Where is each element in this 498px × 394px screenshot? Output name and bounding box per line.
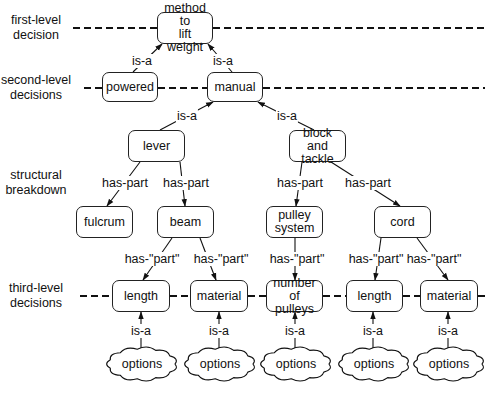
edge-label: has-part — [162, 176, 210, 190]
node-powered: powered — [102, 72, 158, 102]
options-cloud-label: options — [200, 357, 240, 371]
level-label-structural: structural breakdown — [3, 168, 68, 198]
node-material1: material — [190, 280, 248, 312]
level-label-third: third-level decisions — [7, 281, 65, 311]
edge-label: has-part — [101, 176, 149, 190]
edge-label: has-part — [344, 176, 392, 190]
connector-layer — [0, 0, 498, 394]
node-length2: length — [346, 280, 403, 312]
edge-label: has-"part" — [269, 252, 326, 266]
edge-label: has-"part" — [193, 252, 250, 266]
edge-label: has-part — [276, 176, 324, 190]
options-cloud-label: options — [122, 357, 162, 371]
edge-label: is-a — [208, 324, 230, 338]
edge-label: is-a — [131, 54, 153, 68]
options-cloud-label: options — [429, 357, 469, 371]
node-fulcrum: fulcrum — [76, 206, 133, 238]
edge-label: is-a — [362, 324, 384, 338]
options-cloud-label: options — [276, 357, 316, 371]
options-cloud-label: options — [354, 357, 394, 371]
edge-label: has-"part" — [406, 252, 463, 266]
diagram-canvas: is-ais-ais-ais-ahas-parthas-parthas-part… — [0, 0, 498, 394]
edge-label: is-a — [437, 324, 459, 338]
node-method: method to lift weight — [157, 12, 213, 44]
node-pulley: pulley system — [266, 206, 323, 238]
node-material2: material — [420, 280, 478, 312]
edge-label: is-a — [284, 324, 306, 338]
node-numpulleys: number of pulleys — [266, 280, 323, 312]
node-block: block and tackle — [289, 130, 346, 162]
level-label-first: first-level decision — [9, 13, 63, 43]
edge-label: is-a — [276, 109, 298, 123]
node-cord: cord — [374, 206, 431, 238]
node-length1: length — [112, 280, 170, 312]
level-label-second: second-level decisions — [0, 73, 73, 103]
edge-label: is-a — [130, 324, 152, 338]
node-manual: manual — [207, 72, 263, 102]
node-beam: beam — [157, 206, 214, 238]
edge-label: has-"part" — [348, 252, 405, 266]
edge-label: is-a — [176, 109, 198, 123]
edge-label: is-a — [212, 54, 234, 68]
edge-label: has-"part" — [124, 252, 181, 266]
node-lever: lever — [128, 130, 185, 162]
